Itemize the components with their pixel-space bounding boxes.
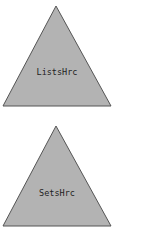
sets-hierarchy-triangle xyxy=(3,126,111,226)
lists-hierarchy-node: ListsHrc xyxy=(3,6,111,106)
sets-hierarchy-label: SetsHrc xyxy=(39,188,75,198)
lists-hierarchy-triangle xyxy=(3,6,111,106)
sets-hierarchy-node: SetsHrc xyxy=(3,126,111,226)
lists-hierarchy-label: ListsHrc xyxy=(37,67,78,77)
cutoff-caption-text xyxy=(2,236,152,243)
hierarchy-diagram: ListsHrc SetsHrc xyxy=(0,0,153,243)
